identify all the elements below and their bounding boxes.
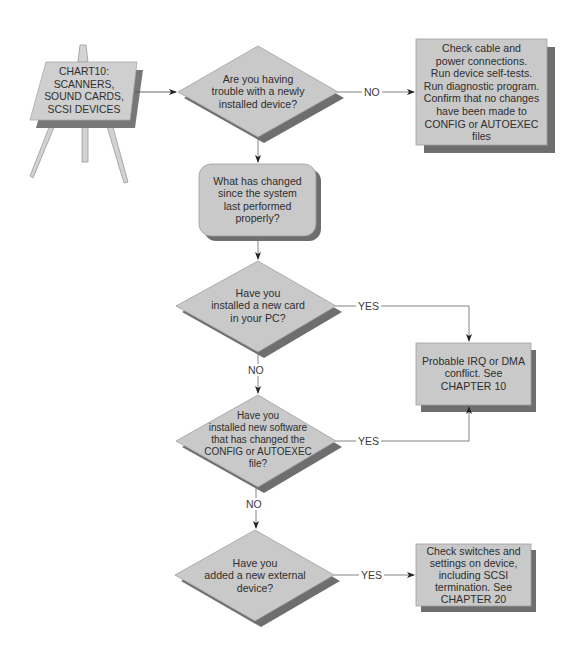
edge-label-q3-q4: NO [244,498,264,510]
edge-label-q4-a3: YES [359,569,384,581]
action-text-a3: Check switches and settings on device, i… [416,545,531,605]
action-text-a2: Probable IRQ or DMA conflict. See CHAPTE… [416,355,531,392]
edge-label-q1-a1: NO [362,86,382,98]
edge-label-q2-a2: YES [356,300,381,312]
edge-label-q2-q3: NO [246,364,266,376]
edge-label-q3-a2: YES [356,435,381,447]
process-text-p1: What has changed since the system last p… [199,175,316,225]
decision-text-q2: Have you installed a new card in your PC… [196,287,320,324]
decision-text-q3: Have you installed new software that has… [196,410,320,470]
decision-text-q4: Have you added a new external device? [193,557,317,594]
title-sign-text: CHART10: SCANNERS, SOUND CARDS, SCSI DEV… [34,66,134,116]
decision-text-q1: Are you having trouble with a newly inst… [198,73,318,110]
action-text-a1: Check cable and power connections. Run d… [416,42,547,143]
